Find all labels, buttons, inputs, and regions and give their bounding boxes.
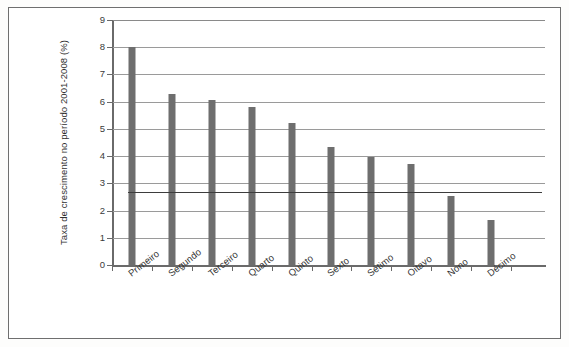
x-tick-mark-7 [391,265,392,271]
y-tick-mark-4 [107,156,113,157]
y-tick-mark-2 [107,211,113,212]
bar-sétimo [368,157,375,265]
y-axis-title: Taxa de crescimento no período 2001-2008… [57,20,71,265]
gridline-8 [112,47,545,48]
reference-line [128,192,542,194]
x-tick-mark-2 [192,265,193,271]
gridline-7 [112,74,545,75]
bar-segundo [168,94,175,266]
x-tick-mark-10 [511,265,512,271]
figure-page: Taxa de crescimento no período 2001-2008… [0,0,569,347]
x-tick-mark-4 [272,265,273,271]
y-axis-title-text: Taxa de crescimento no período 2001-2008… [59,40,70,245]
bar-décimo [488,220,495,265]
y-tick-mark-5 [107,129,113,130]
gridline-5 [112,129,545,130]
bar-nono [448,196,455,265]
bar-primeiro [128,47,135,265]
x-tick-mark-1 [152,265,153,271]
x-tick-mark-6 [351,265,352,271]
y-tick-label-4: 4 [100,151,105,161]
gridline-9 [112,20,545,21]
y-tick-mark-9 [107,20,113,21]
gridline-6 [112,102,545,103]
y-tick-label-8: 8 [100,42,105,52]
bar-quinto [288,123,295,265]
x-tick-mark-0 [112,265,113,271]
x-tick-mark-5 [312,265,313,271]
clipped-caption [150,0,550,2]
bar-sexto [328,147,335,265]
y-tick-label-6: 6 [100,97,105,107]
y-tick-mark-7 [107,74,113,75]
x-tick-mark-9 [471,265,472,271]
bar-oitavo [408,164,415,265]
plot-area: 0123456789 [112,20,545,265]
y-tick-label-2: 2 [100,206,105,216]
x-tick-mark-8 [431,265,432,271]
y-tick-mark-6 [107,102,113,103]
y-tick-mark-3 [107,183,113,184]
y-tick-label-7: 7 [100,70,105,80]
y-tick-label-5: 5 [100,124,105,134]
y-tick-mark-1 [107,238,113,239]
y-tick-label-9: 9 [100,15,105,25]
y-tick-label-0: 0 [100,260,105,270]
y-tick-label-1: 1 [100,233,105,243]
x-tick-mark-3 [232,265,233,271]
bar-terceiro [208,100,215,265]
y-tick-mark-8 [107,47,113,48]
bar-quarto [248,107,255,265]
y-tick-label-3: 3 [100,179,105,189]
